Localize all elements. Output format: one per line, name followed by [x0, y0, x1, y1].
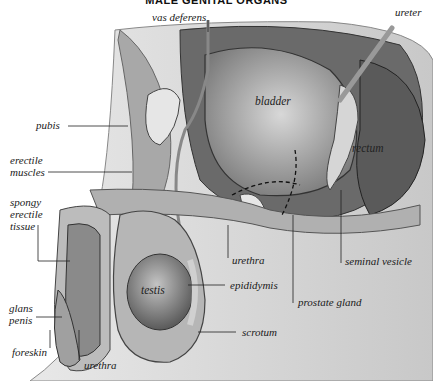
label-rectum: rectum: [352, 142, 384, 154]
label-pubis: pubis: [36, 119, 60, 131]
label-erectile-muscles: erectile muscles: [10, 154, 45, 178]
label-erectile-muscles-line1: erectile: [10, 154, 45, 166]
label-prostate-gland: prostate gland: [298, 296, 361, 308]
label-glans-line1: glans: [9, 302, 33, 314]
diagram-title: MALE GENITAL ORGANS: [0, 0, 433, 6]
label-vas-deferens: vas deferens: [152, 11, 206, 23]
illustration: [0, 0, 433, 381]
label-glans-line2: penis: [9, 314, 33, 326]
label-bladder: bladder: [255, 95, 291, 107]
label-epididymis: epididymis: [230, 279, 278, 291]
label-seminal-vesicle: seminal vesicle: [345, 255, 412, 267]
label-ureter: ureter: [395, 6, 421, 18]
label-scrotum: scrotum: [242, 326, 277, 338]
label-spongy-erectile-tissue: spongy erectile tissue: [10, 196, 43, 232]
label-spongy-line2: erectile: [10, 208, 43, 220]
label-testis: testis: [141, 284, 165, 296]
label-foreskin: foreskin: [12, 346, 47, 358]
label-glans-penis: glans penis: [9, 302, 33, 326]
label-spongy-line3: tissue: [10, 220, 43, 232]
label-urethra-lower: urethra: [84, 359, 117, 371]
label-urethra-upper: urethra: [232, 254, 265, 266]
anatomy-diagram: MALE GENITAL ORGANS vas deferens ureter …: [0, 0, 433, 381]
label-spongy-line1: spongy: [10, 196, 43, 208]
label-erectile-muscles-line2: muscles: [10, 166, 45, 178]
